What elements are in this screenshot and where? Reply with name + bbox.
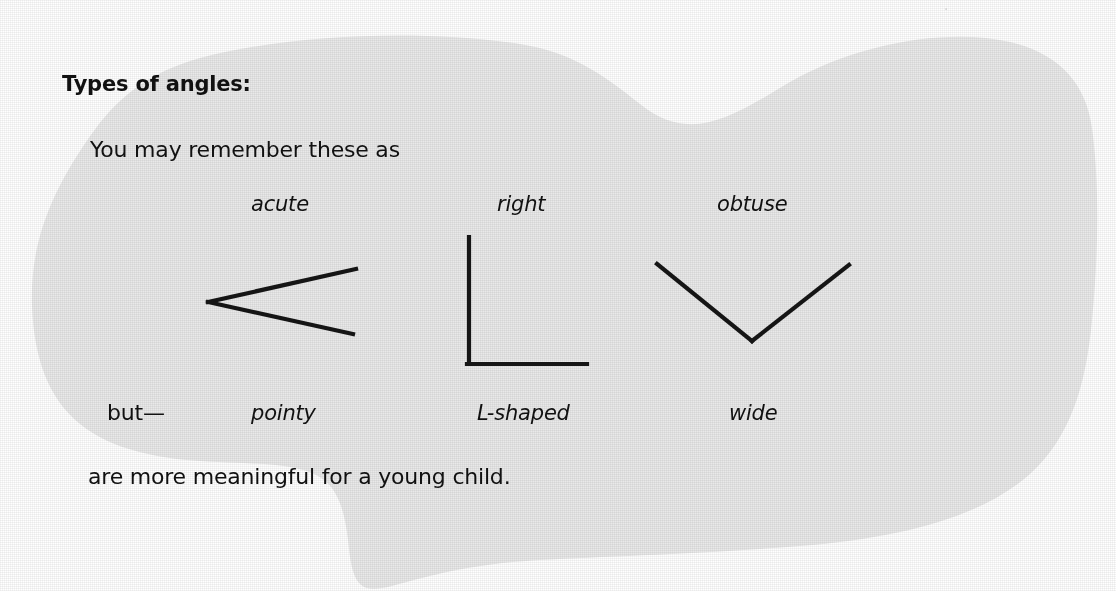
label-pointy: pointy	[251, 403, 316, 424]
page-title: Types of angles:	[62, 74, 251, 95]
intro-text: You may remember these as	[90, 139, 400, 161]
scanned-page: Types of angles: You may remember these …	[0, 0, 1116, 591]
scan-artifact-speck: ·	[944, 2, 960, 18]
label-acute: acute	[251, 194, 309, 215]
label-l-shaped: L-shaped	[477, 403, 570, 424]
label-obtuse: obtuse	[717, 194, 787, 215]
but-text: but—	[107, 402, 165, 424]
label-right: right	[497, 194, 545, 215]
closing-text: are more meaningful for a young child.	[88, 466, 510, 488]
label-wide: wide	[729, 403, 777, 424]
